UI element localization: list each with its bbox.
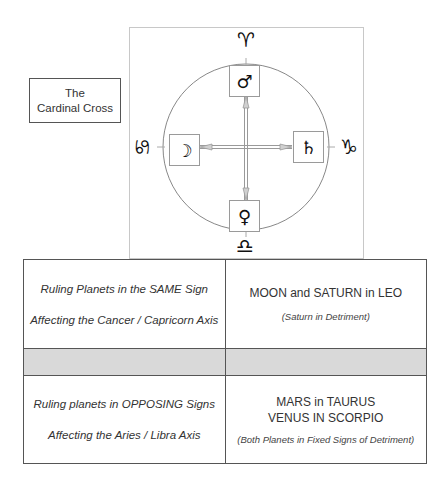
table-row-opposing-signs: Ruling planets in OPPOSING Signs Affecti… [24, 376, 427, 464]
table-row-separator [24, 349, 427, 376]
cancer-sign-icon: ♋ [132, 138, 152, 156]
same-sign-detail-cell: MOON and SATURN in LEO (Saturn in Detrim… [225, 260, 427, 349]
aries-sign-icon: ♈ [237, 30, 255, 50]
horizontal-cross-line [200, 146, 292, 149]
separator-cell-left [24, 349, 226, 376]
same-sign-planets: MOON and SATURN in LEO [230, 285, 423, 301]
separator-cell-right [225, 349, 427, 376]
same-sign-heading: Ruling Planets in the SAME Sign [28, 281, 221, 297]
same-sign-description-cell: Ruling Planets in the SAME Sign Affectin… [24, 260, 226, 349]
saturn-planet-box: ♄ [293, 131, 324, 163]
mars-planet-box: ♂ [229, 65, 260, 97]
cardinal-cross-chart: ♈ ♎ ♋ ♑ ♂ ♀ ☽ ♄ [129, 27, 364, 259]
diagram-title-box: The Cardinal Cross [29, 78, 121, 123]
opposing-signs-heading: Ruling planets in OPPOSING Signs [28, 396, 221, 412]
libra-sign-icon: ♎ [236, 236, 254, 256]
saturn-icon: ♄ [300, 137, 316, 158]
opposing-signs-note: (Both Planets in Fixed Signs of Detrimen… [230, 434, 423, 446]
mars-placement: MARS in TAURUS [230, 394, 423, 410]
info-table: Ruling Planets in the SAME Sign Affectin… [23, 259, 427, 464]
moon-planet-box: ☽ [169, 134, 200, 166]
venus-planet-box: ♀ [229, 200, 260, 232]
venus-icon: ♀ [238, 206, 251, 227]
moon-icon: ☽ [176, 140, 192, 161]
capricorn-sign-icon: ♑ [340, 137, 358, 157]
venus-placement: VENUS IN SCORPIO [230, 410, 423, 426]
title-line-2: Cardinal Cross [37, 101, 113, 116]
opposing-signs-description-cell: Ruling planets in OPPOSING Signs Affecti… [24, 376, 226, 464]
table-row-same-sign: Ruling Planets in the SAME Sign Affectin… [24, 260, 427, 349]
same-sign-axis: Affecting the Cancer / Capricorn Axis [28, 312, 221, 328]
mars-icon: ♂ [236, 71, 252, 92]
same-sign-note: (Saturn in Detriment) [230, 311, 423, 323]
opposing-signs-axis: Affecting the Aries / Libra Axis [28, 427, 221, 443]
opposing-signs-detail-cell: MARS in TAURUS VENUS IN SCORPIO (Both Pl… [225, 376, 427, 464]
title-line-1: The [65, 86, 85, 101]
